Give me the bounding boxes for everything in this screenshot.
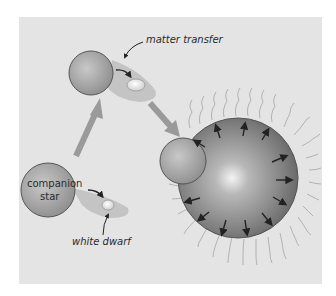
companion-star-nova (160, 138, 206, 184)
matter-transfer-pointer (125, 42, 143, 57)
companion-star-bottom (21, 163, 75, 217)
white-dwarf-bottom (102, 200, 114, 210)
companion-star-label-line1: companion (27, 178, 82, 189)
matter-transfer-label: matter transfer (146, 34, 223, 45)
accretion-disk-bottom (72, 188, 129, 218)
stage-arrow-up (76, 98, 103, 156)
white-dwarf-top (127, 79, 145, 91)
stage-arrow-down (150, 103, 180, 137)
white-dwarf-label: white dwarf (72, 236, 131, 247)
white-dwarf-pointer (103, 215, 108, 235)
companion-star-label-line2: star (40, 191, 59, 202)
companion-star-top (69, 51, 113, 95)
